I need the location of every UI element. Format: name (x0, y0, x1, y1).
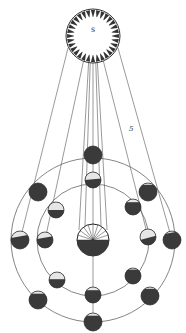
moon-phase-15 (83, 285, 103, 303)
moon-phase-6 (27, 289, 49, 309)
moon-phase-4 (29, 183, 47, 201)
moon-phase-9 (46, 200, 66, 218)
moon-phase-13 (47, 270, 67, 288)
sun-rays-lines (20, 38, 172, 240)
moon-phase-14 (123, 266, 143, 284)
moon-phase-12 (136, 225, 158, 245)
moon-phase-3 (82, 311, 104, 331)
moon-phase-0 (84, 146, 102, 164)
moon-phase-2 (159, 227, 181, 249)
sun-label: S (91, 26, 95, 33)
sun: S (66, 9, 120, 63)
moon-phase-5 (137, 181, 159, 201)
moon-phases-diagram: S 5 (0, 0, 186, 333)
moon-phase-11 (33, 228, 54, 248)
earth (77, 224, 109, 256)
figure-number: 5 (129, 125, 134, 133)
moon-phase-7 (139, 285, 161, 305)
moon-phase-10 (123, 197, 143, 215)
